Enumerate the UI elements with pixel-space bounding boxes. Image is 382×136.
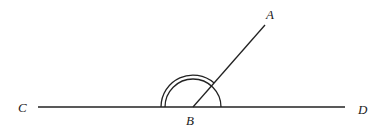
- angle-diagram: A B C D: [0, 0, 382, 136]
- inner-arc: [165, 79, 221, 107]
- label-d: D: [357, 102, 368, 117]
- label-a: A: [265, 7, 274, 22]
- label-b: B: [186, 113, 194, 128]
- label-c: C: [18, 100, 27, 115]
- ray-ba: [193, 25, 265, 107]
